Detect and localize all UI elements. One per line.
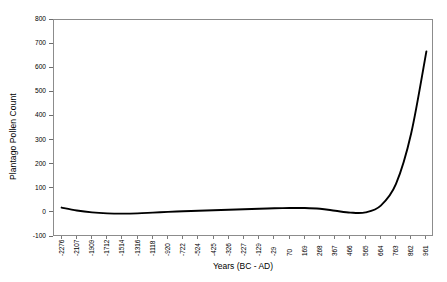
x-axis-title: Years (BC - AD) <box>53 261 433 271</box>
x-axis-tick-mark <box>425 236 426 239</box>
x-axis-tick-label: -1712 <box>104 240 111 256</box>
x-axis-tick-label: 862 <box>408 245 415 256</box>
x-axis-tick-mark <box>273 236 274 239</box>
x-axis-tick-mark <box>243 236 244 239</box>
x-axis-tick-mark <box>197 236 198 239</box>
x-axis-tick-label: 70 <box>286 249 293 256</box>
y-axis-tick: 300 <box>0 135 53 145</box>
series-path <box>62 51 427 213</box>
x-axis-tick-label: -524 <box>195 243 202 256</box>
x-axis-tick-label: 961 <box>423 245 430 256</box>
series-line-plantago <box>54 20 434 237</box>
x-axis-tick-labels: -2276-2107-1909-1712-1514-1316-1118-920-… <box>53 236 433 258</box>
x-axis-tick-mark <box>319 236 320 239</box>
x-axis-tick-mark <box>365 236 366 239</box>
pollen-count-line-chart: Plantago Pollen Count 800700600500400300… <box>0 0 447 282</box>
x-axis-tick-mark <box>152 236 153 239</box>
x-axis-tick-label: -1118 <box>149 241 156 256</box>
x-axis-tick-label: 565 <box>362 245 369 256</box>
y-axis-tick-label: 600 <box>35 62 46 72</box>
x-axis-tick-label: -1909 <box>88 240 95 256</box>
x-axis-tick-label: -425 <box>210 243 217 256</box>
x-axis-tick-label: -2107 <box>73 240 80 256</box>
x-axis-tick-mark <box>395 236 396 239</box>
x-axis-tick-mark <box>182 236 183 239</box>
x-axis-tick-mark <box>213 236 214 239</box>
x-axis-tick-label: -2276 <box>58 240 65 256</box>
y-axis-tick-label: 100 <box>35 183 46 193</box>
x-axis-tick-label: -227 <box>240 243 247 256</box>
x-axis-tick-label: 169 <box>301 245 308 256</box>
x-axis-tick-mark <box>228 236 229 239</box>
x-axis-tick-mark <box>106 236 107 239</box>
x-axis-tick-mark <box>258 236 259 239</box>
y-axis-tick-label: 500 <box>35 86 46 96</box>
y-axis-tick: 400 <box>0 110 53 120</box>
plot-area <box>53 19 433 236</box>
y-axis-tick-labels: 8007006005004003002001000-100 <box>0 19 53 236</box>
x-axis-tick-mark <box>167 236 168 239</box>
x-axis-tick-mark <box>61 236 62 239</box>
x-axis-tick-label: -1514 <box>119 240 126 256</box>
y-axis-tick: 700 <box>0 38 53 48</box>
x-axis-tick-label: -29 <box>271 247 278 256</box>
x-axis-tick-mark <box>304 236 305 239</box>
y-axis-tick-label: -100 <box>33 231 46 241</box>
y-axis-tick: 500 <box>0 86 53 96</box>
x-axis-tick-mark <box>76 236 77 239</box>
x-axis-tick-mark <box>334 236 335 239</box>
x-axis-tick-mark <box>137 236 138 239</box>
y-axis-tick: 600 <box>0 62 53 72</box>
x-axis-tick-mark <box>121 236 122 239</box>
x-axis-tick-label: 268 <box>316 245 323 256</box>
y-axis-tick-label: 700 <box>35 38 46 48</box>
x-axis-tick-label: 466 <box>347 245 354 256</box>
y-axis-tick-label: 0 <box>42 207 46 217</box>
x-axis-tick-mark <box>289 236 290 239</box>
y-axis-tick-label: 800 <box>35 14 46 24</box>
x-axis-tick-label: 763 <box>392 245 399 256</box>
x-axis-tick-label: -326 <box>225 243 232 256</box>
y-axis-tick: 100 <box>0 183 53 193</box>
y-axis-tick: -100 <box>0 231 53 241</box>
x-axis-tick-label: -1316 <box>134 240 141 256</box>
y-axis-tick: 800 <box>0 14 53 24</box>
x-axis-tick-label: -722 <box>180 243 187 256</box>
y-axis-tick: 200 <box>0 159 53 169</box>
x-axis-tick-mark <box>349 236 350 239</box>
y-axis-tick-label: 400 <box>35 110 46 120</box>
y-axis-tick: 0 <box>0 207 53 217</box>
x-axis-tick-label: 367 <box>332 245 339 256</box>
x-axis-tick-label: 664 <box>377 245 384 256</box>
x-axis-tick-label: -920 <box>164 243 171 256</box>
x-axis-tick-mark <box>410 236 411 239</box>
x-axis-tick-mark <box>380 236 381 239</box>
y-axis-tick-label: 300 <box>35 135 46 145</box>
y-axis-tick-label: 200 <box>35 159 46 169</box>
x-axis-tick-label: -129 <box>256 243 263 256</box>
x-axis-tick-mark <box>91 236 92 239</box>
